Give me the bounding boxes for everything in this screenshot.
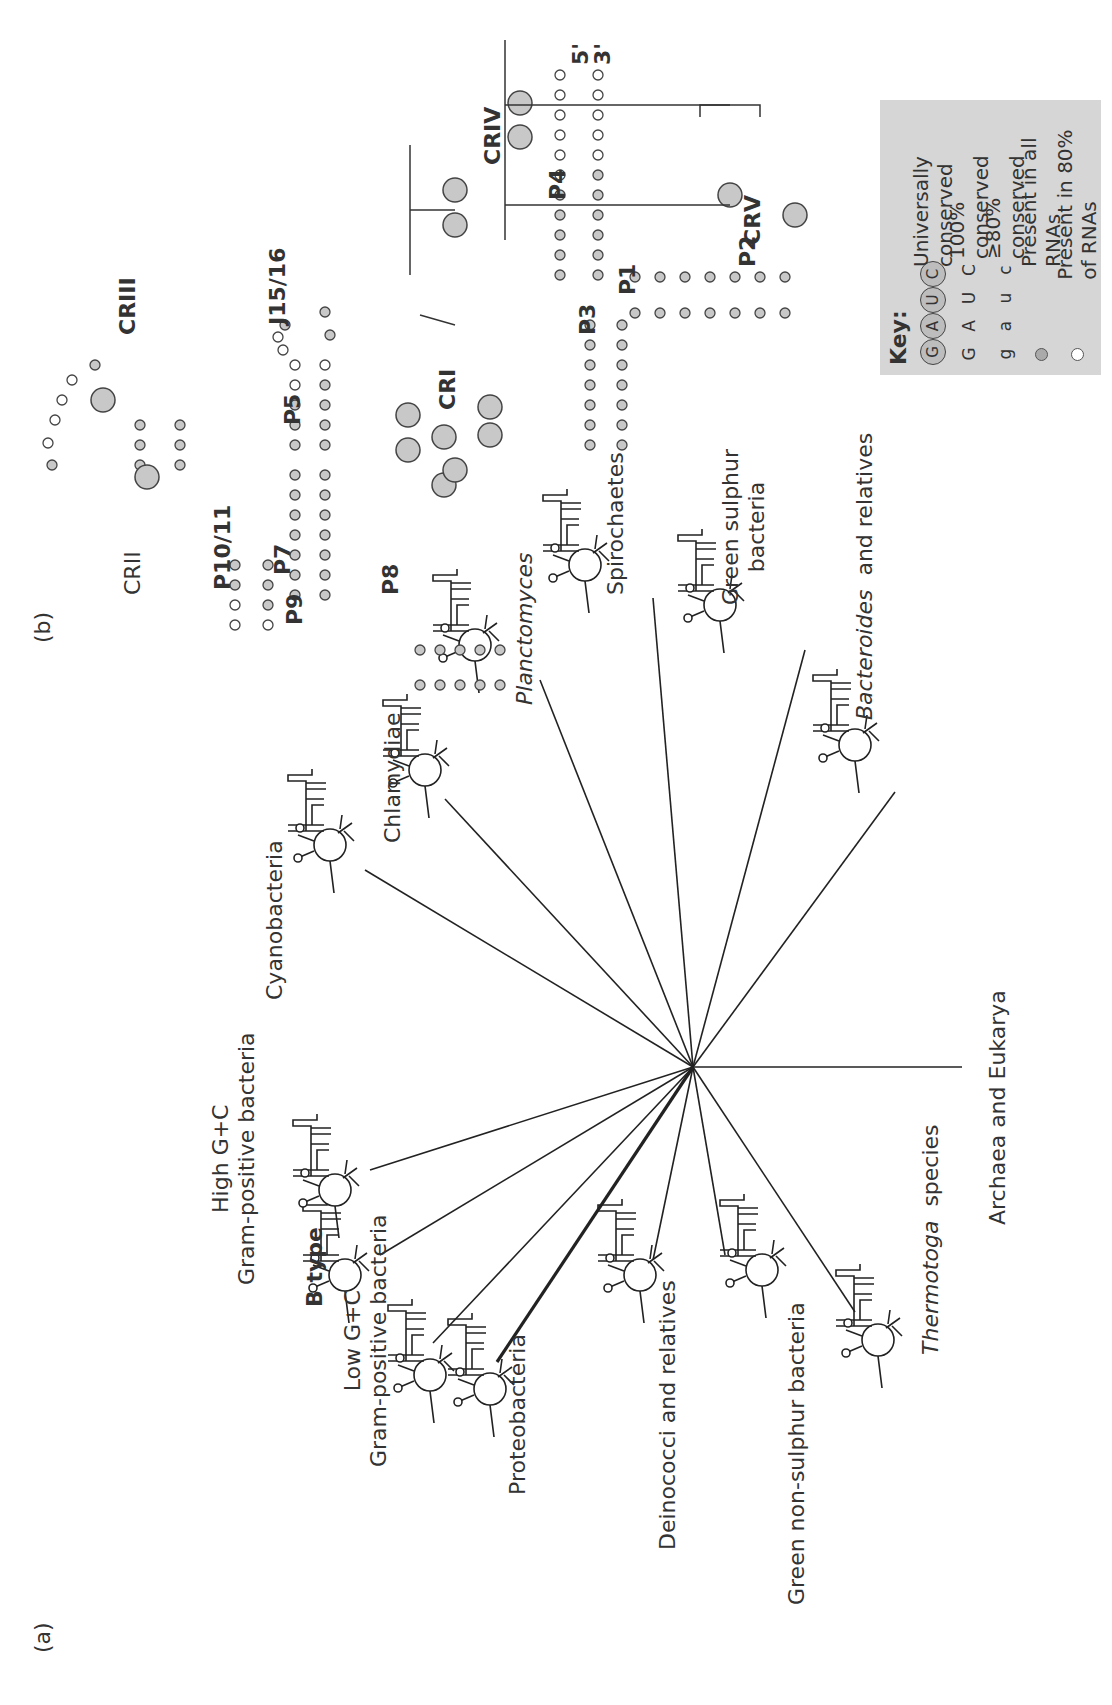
key-panel: Key: G A U C Universally conserved GAUC … bbox=[880, 100, 1101, 375]
region-label-crii: CRII bbox=[120, 551, 145, 595]
region-label-criii: CRIII bbox=[115, 277, 140, 335]
helix-label-p7: P7 bbox=[270, 544, 295, 575]
helix-p3 bbox=[585, 320, 627, 450]
helix-p2 bbox=[630, 272, 790, 318]
key-heading: Key: bbox=[886, 110, 911, 365]
loop-crii-criii bbox=[43, 360, 100, 470]
region-label-criv: CRIV bbox=[480, 107, 505, 165]
helix-label-p9: P9 bbox=[282, 594, 307, 625]
helix-label-p4: P4 bbox=[545, 169, 570, 200]
open-dot-icon bbox=[1071, 348, 1084, 361]
helix-label-p1: P1 bbox=[615, 264, 640, 295]
helix-label-j15-16: J15/16 bbox=[265, 248, 290, 325]
helix-label-p10-11: P10/11 bbox=[210, 505, 235, 590]
circled-nucleotides-icon: G A U C bbox=[920, 267, 946, 365]
filled-dot-icon bbox=[1035, 348, 1048, 361]
region-label-cri: CRI bbox=[435, 369, 460, 410]
key-row-present-80: Present in 80% of RNAs bbox=[1059, 110, 1095, 365]
universally-conserved-nucleotides bbox=[91, 91, 807, 497]
helix-label-p8: P8 bbox=[378, 564, 403, 595]
region-label-crv: CRV bbox=[740, 195, 765, 245]
helix-label-p5: P5 bbox=[280, 394, 305, 425]
helix-label-p3: P3 bbox=[575, 304, 600, 335]
figure-canvas: (a) bbox=[0, 0, 1112, 1705]
end-3-prime: 3' bbox=[590, 43, 615, 65]
